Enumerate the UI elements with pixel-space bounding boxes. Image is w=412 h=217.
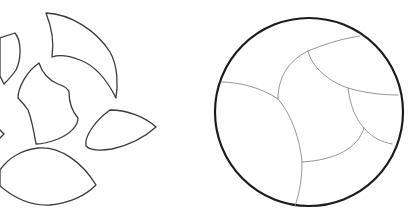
piece-center-irregular	[18, 63, 78, 144]
assembled-circle-outline	[215, 18, 403, 206]
piece-top-left-fragment	[0, 33, 20, 84]
scattered-pieces-canvas	[0, 0, 206, 217]
piece-left-edge-small	[0, 130, 4, 138]
piece-bottom-lens	[0, 148, 96, 205]
piece-right-teardrop	[86, 110, 156, 150]
assembled-circle-canvas	[206, 0, 412, 217]
scattered-pieces-panel: Scattered pieces	[0, 0, 206, 217]
assembled-circle-panel: Assembled circle	[206, 0, 412, 217]
